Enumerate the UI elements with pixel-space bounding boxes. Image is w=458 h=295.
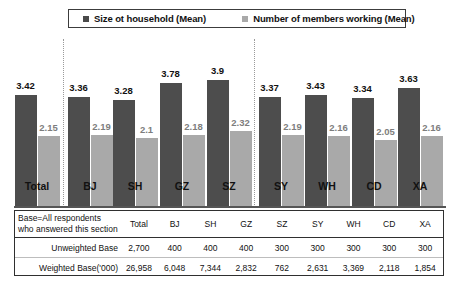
table-column-header-sy: SY [300, 211, 336, 238]
bar-value-members-working-cd: 2.05 [371, 126, 401, 137]
bar-value-size-of-household-gz: 3.78 [156, 68, 186, 79]
bar-value-size-of-household-sh: 3.28 [109, 85, 139, 96]
legend-entry-size-of-household: Size ot household (Mean) [83, 13, 206, 24]
bar-value-size-of-household-sy: 3.37 [255, 82, 285, 93]
table-column-header-gz: GZ [228, 211, 264, 238]
table-column-header-sz: SZ [264, 211, 300, 238]
bar-value-members-working-total: 2.15 [34, 122, 64, 133]
table-cell-sz: 300 [264, 238, 300, 258]
table-row: Weighted Base('000)26,9586,0487,3442,832… [15, 258, 443, 278]
table-cell-wh: 300 [336, 238, 372, 258]
legend-swatch-light-icon [242, 16, 248, 22]
bar-value-members-working-sy: 2.19 [278, 121, 308, 132]
table-cell-sh: 7,344 [193, 258, 229, 278]
legend-label-size-of-household: Size ot household (Mean) [94, 13, 206, 24]
table-cell-total: 2,700 [121, 238, 157, 258]
chart-legend: Size ot household (Mean) Number of membe… [68, 9, 406, 28]
bar-value-members-working-gz: 2.18 [179, 121, 209, 132]
table-column-header-wh: WH [336, 211, 372, 238]
table-cell-sz: 762 [264, 258, 300, 278]
table-cell-cd: 300 [371, 238, 407, 258]
table-column-header-sh: SH [193, 211, 229, 238]
bar-value-size-of-household-xa: 3.63 [394, 73, 424, 84]
bar-chart-plot: 3.422.153.362.193.282.13.782.183.92.323.… [0, 33, 458, 173]
table-column-header-total: Total [121, 211, 157, 238]
table-cell-sy: 2,631 [300, 258, 336, 278]
table-cell-xa: 1,854 [407, 258, 443, 278]
bar-value-size-of-household-sz: 3.9 [203, 65, 233, 76]
table-cell-gz: 400 [228, 238, 264, 258]
bar-value-size-of-household-total: 3.42 [11, 80, 41, 91]
bar-members-working-cd [375, 140, 397, 206]
bar-value-members-working-sz: 2.32 [226, 117, 256, 128]
table-row: Unweighted Base2,70040040040030030030030… [15, 238, 443, 258]
bar-value-size-of-household-cd: 3.34 [348, 83, 378, 94]
table-column-header-cd: CD [371, 211, 407, 238]
table-header-caption: Base=All respondents who answered this s… [15, 211, 121, 238]
axis-baseline [14, 206, 446, 208]
category-axis: TotalBJSHGZSZSYWHCDXA [0, 180, 458, 196]
table-cell-total: 26,958 [121, 258, 157, 278]
table-cell-wh: 3,369 [336, 258, 372, 278]
table-header-row: Base=All respondents who answered this s… [15, 211, 443, 238]
legend-swatch-dark-icon [83, 16, 89, 22]
bar-value-members-working-xa: 2.16 [417, 122, 447, 133]
legend-label-members-working: Number of members working (Mean) [253, 13, 415, 24]
category-label-sz: SZ [199, 180, 259, 192]
table-cell-cd: 2,118 [371, 258, 407, 278]
table-row-label-weighted-base-000: Weighted Base('000) [15, 258, 121, 278]
chart-page: Size ot household (Mean) Number of membe… [0, 0, 458, 295]
bar-value-size-of-household-wh: 3.43 [301, 80, 331, 91]
table-cell-sh: 400 [193, 238, 229, 258]
table-cell-bj: 6,048 [157, 258, 193, 278]
category-label-xa: XA [390, 180, 450, 192]
table-cell-gz: 2,832 [228, 258, 264, 278]
bar-value-members-working-sh: 2.1 [132, 124, 162, 135]
table-cell-sy: 300 [300, 238, 336, 258]
legend-entry-members-working: Number of members working (Mean) [242, 13, 415, 24]
table-row-label-unweighted-base: Unweighted Base [15, 238, 121, 258]
table-cell-xa: 300 [407, 238, 443, 258]
category-label-total: Total [7, 180, 67, 192]
bar-value-size-of-household-bj: 3.36 [64, 82, 94, 93]
bar-value-members-working-wh: 2.16 [324, 122, 354, 133]
table-cell-bj: 400 [157, 238, 193, 258]
table-column-header-bj: BJ [157, 211, 193, 238]
table-column-header-xa: XA [407, 211, 443, 238]
base-table: Base=All respondents who answered this s… [14, 210, 444, 276]
